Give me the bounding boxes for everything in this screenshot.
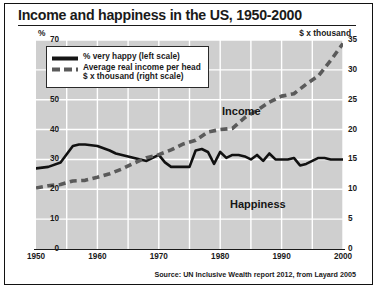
y-tick-right-5: 5 (348, 214, 370, 223)
chart-title: Income and happiness in the US, 1950-200… (18, 7, 348, 23)
title-divider (18, 25, 356, 26)
x-tick-1950: 1950 (19, 252, 53, 261)
solid-line-key-icon (52, 56, 78, 61)
y-tick-right-15: 15 (348, 154, 370, 163)
legend-label-happiness: % very happy (left scale) (83, 52, 180, 62)
x-tick-2000: 2000 (326, 252, 360, 261)
chart-legend: % very happy (left scale) Average real i… (46, 46, 209, 88)
legend-label-income-line1: Average real income per head (83, 62, 201, 72)
y-tick-right-30: 30 (348, 65, 370, 74)
source-note: Source: UN Inclusive Wealth report 2012,… (154, 270, 356, 279)
legend-label-income-line2: $ x thousand (right scale) (83, 71, 184, 81)
dashed-line-key-icon (52, 67, 78, 72)
y-tick-right-20: 20 (348, 125, 370, 134)
y-tick-left-40: 40 (37, 125, 59, 134)
y-tick-left-20: 20 (37, 184, 59, 193)
legend-item-happiness: % very happy (left scale) (52, 52, 201, 62)
legend-item-income: Average real income per head $ x thousan… (52, 63, 201, 82)
x-axis-line (34, 249, 345, 250)
right-axis-unit: $ x thousand (299, 28, 351, 38)
series-annotation-income: Income (222, 105, 261, 117)
y-tick-right-25: 25 (348, 95, 370, 104)
x-tick-1990: 1990 (265, 252, 299, 261)
x-tick-1980: 1980 (203, 252, 237, 261)
y-tick-left-50: 50 (37, 95, 59, 104)
y-tick-left-10: 10 (37, 214, 59, 223)
x-tick-1970: 1970 (142, 252, 176, 261)
chart-figure: Income and happiness in the US, 1950-200… (0, 0, 377, 290)
legend-label-income: Average real income per head $ x thousan… (83, 63, 201, 82)
y-tick-right-35: 35 (348, 35, 370, 44)
series-annotation-happiness: Happiness (230, 198, 286, 210)
y-tick-right-10: 10 (348, 184, 370, 193)
y-tick-left-70: 70 (37, 35, 59, 44)
y-tick-left-30: 30 (37, 154, 59, 163)
x-tick-1960: 1960 (80, 252, 114, 261)
